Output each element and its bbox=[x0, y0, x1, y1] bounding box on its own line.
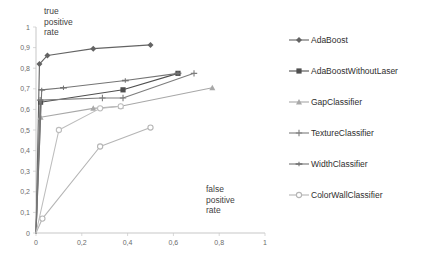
y-tick-label: 0,3 bbox=[20, 168, 30, 175]
legend-marker-icon bbox=[288, 158, 310, 170]
series-line bbox=[36, 128, 151, 233]
data-point-circle bbox=[148, 125, 153, 130]
legend-label: GapClassifier bbox=[310, 97, 362, 107]
y-tick-label: 0,6 bbox=[20, 106, 30, 113]
plus-marker bbox=[296, 129, 302, 135]
y-tick-label: 0,1 bbox=[20, 209, 30, 216]
chart-legend: AdaBoostAdaBoostWithoutLaserGapClassifie… bbox=[288, 24, 447, 210]
circle-marker bbox=[56, 127, 61, 132]
y-tick-label: 0,7 bbox=[20, 85, 30, 92]
circle-marker bbox=[296, 192, 301, 197]
diamond-marker bbox=[90, 46, 96, 52]
data-point-square bbox=[120, 87, 125, 92]
series-6 bbox=[36, 125, 153, 233]
legend-label: WidthClassifier bbox=[310, 159, 368, 169]
data-point-plus bbox=[191, 70, 197, 76]
circle-marker bbox=[40, 216, 45, 221]
legend-item-textureclassifier[interactable]: TextureClassifier bbox=[288, 117, 447, 148]
legend-item-colorwallclassifier[interactable]: ColorWallClassifier bbox=[288, 179, 447, 210]
series-3 bbox=[36, 85, 215, 233]
series-line bbox=[36, 73, 178, 233]
data-point-plus bbox=[120, 95, 126, 101]
legend-item-gapclassifier[interactable]: GapClassifier bbox=[288, 86, 447, 117]
data-point-diamond bbox=[296, 37, 302, 43]
legend-item-adaboost[interactable]: AdaBoost bbox=[288, 24, 447, 55]
square-marker bbox=[120, 87, 125, 92]
y-tick-label: 0,5 bbox=[20, 127, 30, 134]
data-point-circle bbox=[118, 104, 123, 109]
legend-marker-icon bbox=[288, 127, 310, 139]
y-tick-label: 0,9 bbox=[20, 44, 30, 51]
data-point-circle bbox=[296, 192, 301, 197]
data-point-diamond bbox=[148, 42, 154, 48]
series-5 bbox=[36, 71, 181, 233]
plus-marker bbox=[120, 95, 126, 101]
data-point-circle bbox=[56, 127, 61, 132]
roc-chart: 00,10,20,30,40,50,60,70,80,9100,20,40,60… bbox=[0, 0, 447, 263]
x-tick-label: 0,2 bbox=[77, 239, 87, 246]
circle-marker bbox=[98, 144, 103, 149]
legend-marker-icon bbox=[288, 189, 310, 201]
x-tick-label: 0,8 bbox=[214, 239, 224, 246]
data-point-dash bbox=[60, 86, 67, 90]
legend-item-widthclassifier[interactable]: WidthClassifier bbox=[288, 148, 447, 179]
legend-item-adaboostwithoutlaser[interactable]: AdaBoostWithoutLaser bbox=[288, 55, 447, 86]
plot-canvas: 00,10,20,30,40,50,60,70,80,9100,20,40,60… bbox=[0, 0, 290, 263]
series-7 bbox=[36, 104, 123, 233]
x-tick-label: 0 bbox=[34, 239, 38, 246]
data-point-circle bbox=[98, 144, 103, 149]
series-4 bbox=[36, 70, 197, 233]
x-tick-label: 1 bbox=[263, 239, 267, 246]
data-point-circle bbox=[40, 216, 45, 221]
legend-marker-icon bbox=[288, 65, 310, 77]
legend-label: AdaBoostWithoutLaser bbox=[310, 66, 398, 76]
series-line bbox=[36, 88, 212, 233]
y-tick-label: 0,2 bbox=[20, 188, 30, 195]
x-axis-label: false positive rate bbox=[206, 184, 235, 216]
data-point-triangle bbox=[209, 85, 215, 90]
series-line bbox=[36, 106, 121, 233]
diamond-marker bbox=[296, 37, 302, 43]
data-point-dash bbox=[296, 161, 303, 165]
x-tick-label: 0,4 bbox=[123, 239, 133, 246]
data-point-plus bbox=[296, 129, 302, 135]
y-tick-label: 0,8 bbox=[20, 65, 30, 72]
y-axis-label: true positive rate bbox=[44, 6, 73, 38]
x-tick-label: 0,6 bbox=[169, 239, 179, 246]
plus-marker bbox=[99, 95, 105, 101]
circle-marker bbox=[98, 106, 103, 111]
circle-marker bbox=[148, 125, 153, 130]
plot-area: 00,10,20,30,40,50,60,70,80,9100,20,40,60… bbox=[0, 0, 290, 263]
legend-label: AdaBoost bbox=[310, 35, 348, 45]
square-marker bbox=[296, 68, 301, 73]
legend-marker-icon bbox=[288, 96, 310, 108]
diamond-marker bbox=[148, 42, 154, 48]
triangle-marker bbox=[209, 85, 215, 90]
series-line bbox=[36, 73, 194, 233]
y-tick-label: 0 bbox=[26, 230, 30, 237]
data-point-plus bbox=[99, 95, 105, 101]
legend-marker-icon bbox=[288, 34, 310, 46]
circle-marker bbox=[118, 104, 123, 109]
data-point-circle bbox=[98, 106, 103, 111]
y-tick-label: 0,4 bbox=[20, 147, 30, 154]
plus-marker bbox=[191, 70, 197, 76]
series-2 bbox=[36, 71, 181, 233]
legend-label: TextureClassifier bbox=[310, 128, 374, 138]
data-point-dash bbox=[122, 78, 129, 82]
legend-label: ColorWallClassifier bbox=[310, 190, 382, 200]
series-line bbox=[36, 73, 178, 233]
y-tick-label: 1 bbox=[26, 24, 30, 31]
data-point-diamond bbox=[90, 46, 96, 52]
data-point-square bbox=[296, 68, 301, 73]
